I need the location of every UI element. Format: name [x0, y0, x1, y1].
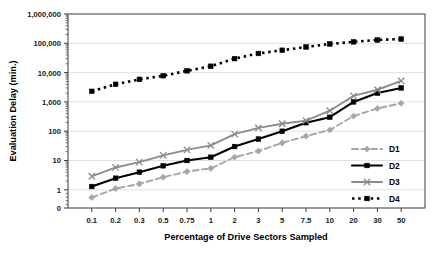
data-point: [90, 89, 95, 94]
y-tick-label: 10,000: [38, 69, 61, 78]
legend-label: D4: [389, 194, 400, 204]
data-point: [351, 100, 356, 105]
evaluation-delay-line-chart: 1,000,000100,00010,0001,0001001010 0.10.…: [0, 0, 438, 257]
data-point: [328, 115, 333, 120]
data-point: [256, 137, 261, 142]
x-tick-label: 3: [256, 216, 260, 225]
x-tick-label: 10: [326, 216, 334, 225]
data-point: [399, 37, 404, 42]
data-point: [256, 51, 261, 56]
y-tick-label: 1,000: [42, 98, 61, 107]
data-point: [161, 164, 166, 169]
data-point: [304, 45, 309, 50]
data-point: [232, 56, 237, 61]
x-tick-label: 50: [397, 216, 405, 225]
x-tick-label: 7.5: [301, 216, 312, 225]
data-point: [328, 42, 333, 47]
data-point: [137, 77, 142, 82]
data-point: [209, 155, 214, 160]
data-point: [185, 158, 190, 163]
x-tick-label: 2: [232, 216, 236, 225]
legend-swatch-marker: [365, 196, 370, 201]
x-tick-label: 0.75: [180, 216, 196, 225]
y-tick-label: 0: [57, 204, 61, 213]
data-point: [113, 82, 118, 87]
data-point: [161, 73, 166, 78]
legend-label: D3: [389, 177, 400, 187]
x-tick-label: 0.5: [158, 216, 169, 225]
data-point: [209, 64, 214, 69]
x-tick-label: 0.2: [110, 216, 121, 225]
y-axis-title: Evaluation Delay (min.): [8, 60, 18, 161]
x-tick-label: 30: [373, 216, 381, 225]
data-point: [185, 69, 190, 74]
data-point: [280, 129, 285, 134]
legend-swatch-marker: [365, 163, 370, 168]
y-tick-label: 10: [53, 156, 61, 165]
data-point: [113, 176, 118, 181]
chart-container: 1,000,000100,00010,0001,0001001010 0.10.…: [0, 0, 438, 257]
x-tick-label: 0.1: [87, 216, 98, 225]
x-tick-label: 0.3: [134, 216, 145, 225]
legend-label: D1: [389, 144, 400, 154]
y-tick-label: 1,000,000: [27, 10, 61, 19]
y-tick-label: 100,000: [34, 39, 61, 48]
data-point: [137, 170, 142, 175]
data-point: [232, 144, 237, 149]
x-axis-title: Percentage of Drive Sectors Sampled: [164, 232, 327, 242]
data-point: [351, 40, 356, 45]
y-tick-label: 100: [48, 127, 61, 136]
x-tick-label: 20: [349, 216, 357, 225]
data-point: [90, 184, 95, 189]
data-point: [280, 48, 285, 53]
data-point: [399, 86, 404, 91]
legend-label: D2: [389, 161, 400, 171]
data-point: [375, 38, 380, 43]
